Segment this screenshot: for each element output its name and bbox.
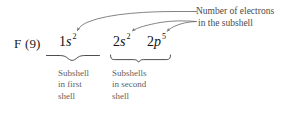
subshell-term-1s: 1s2	[59, 34, 76, 50]
annotation-line-1: Number of electrons	[196, 6, 274, 18]
caption-first-shell-line-2: in first	[58, 79, 89, 90]
caption-second-shell: Subshells in second shell	[112, 68, 147, 102]
arrow-to-1s-superscript	[78, 12, 177, 31]
underbrace-first-shell	[59, 56, 100, 61]
annotation-line-2: in the subshell	[196, 18, 274, 30]
principal-quantum-number-1s: 1	[59, 34, 66, 49]
electron-count-2p: 5	[162, 32, 166, 41]
principal-quantum-number-2p: 2	[147, 34, 154, 49]
subshell-term-2s: 2s2	[113, 34, 130, 50]
arrow-to-2s-superscript	[133, 21, 197, 31]
underbrace-second-shell	[111, 55, 171, 62]
caption-first-shell: Subshell in first shell	[58, 68, 89, 102]
annotation-callout-text: Number of electrons in the subshell	[196, 6, 274, 29]
caption-second-shell-line-1: Subshells	[112, 68, 147, 79]
element-label: F (9)	[14, 36, 41, 51]
subshell-term-2p: 2p5	[147, 34, 166, 50]
orbital-letter-2p: p	[154, 34, 162, 49]
arrow-to-2p-superscript	[167, 22, 196, 32]
caption-second-shell-line-3: shell	[112, 91, 147, 102]
electron-count-1s: 2	[72, 32, 76, 41]
caption-first-shell-line-1: Subshell	[58, 68, 89, 79]
electron-count-2s: 2	[126, 32, 130, 41]
caption-first-shell-line-3: shell	[58, 91, 89, 102]
principal-quantum-number-2s: 2	[113, 34, 120, 49]
caption-second-shell-line-2: in second	[112, 79, 147, 90]
electron-configuration-figure: F (9) 1s2 2s2 2p5 Number of electrons in…	[0, 0, 284, 119]
